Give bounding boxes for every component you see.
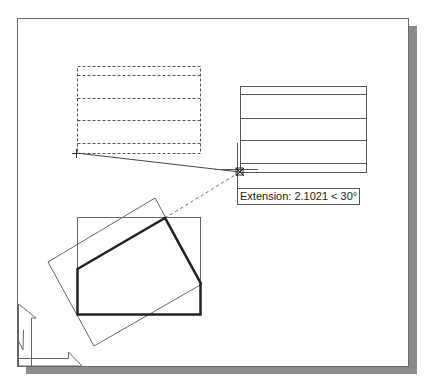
crosshair-cursor-icon bbox=[215, 143, 258, 188]
thick-pentagon-polyline[interactable] bbox=[78, 218, 201, 315]
extension-tracking-line bbox=[165, 172, 240, 218]
dashed-rectangle-with-rows[interactable] bbox=[78, 67, 201, 154]
ucs-icon bbox=[19, 304, 83, 366]
extension-tooltip: Extension: 2.1021 < 30° bbox=[237, 188, 360, 205]
rotated-rectangle[interactable] bbox=[48, 198, 202, 346]
solid-rectangle-with-rows[interactable] bbox=[241, 87, 367, 173]
drawing-canvas[interactable] bbox=[0, 0, 431, 390]
